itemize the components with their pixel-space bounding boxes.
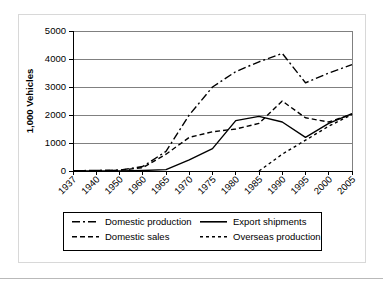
x-tick-label: 1950 <box>102 174 125 197</box>
series-line-domestic-sales <box>73 101 352 171</box>
x-tick-label: 1970 <box>172 174 195 197</box>
legend-label: Domestic production <box>105 216 192 227</box>
y-tick-label: 2000 <box>45 109 66 120</box>
x-tick-label: 2005 <box>335 174 358 197</box>
y-tick-label: 4000 <box>45 53 66 64</box>
legend-label: Overseas production <box>233 231 321 242</box>
legend-label: Export shipments <box>233 216 307 227</box>
x-tick-label: 1990 <box>265 174 288 197</box>
y-tick-label: 3000 <box>45 81 66 92</box>
x-tick-label: 1975 <box>195 174 218 197</box>
x-tick-label: 2000 <box>311 174 334 197</box>
legend-label: Domestic sales <box>105 231 170 242</box>
page-divider-rule <box>0 278 383 279</box>
x-tick-label: 1985 <box>242 174 265 197</box>
y-tick-label: 0 <box>61 165 66 176</box>
x-tick-label: 1965 <box>149 174 172 197</box>
x-tick-label: 1960 <box>125 174 148 197</box>
y-tick-label: 1000 <box>45 137 66 148</box>
y-tick-label: 5000 <box>45 25 66 36</box>
y-axis-title: 1,000 Vehicles <box>24 69 35 133</box>
x-tick-label: 1980 <box>218 174 241 197</box>
series-line-domestic-production <box>73 53 352 170</box>
x-tick-label: 1940 <box>79 174 102 197</box>
x-tick-label: 1995 <box>288 174 311 197</box>
x-tick-label: 1937 <box>56 174 79 197</box>
series-line-export-shipments <box>73 114 352 171</box>
figure-root: 0100020003000400050001,000 Vehicles19371… <box>0 0 383 285</box>
line-chart: 0100020003000400050001,000 Vehicles19371… <box>18 14 366 263</box>
